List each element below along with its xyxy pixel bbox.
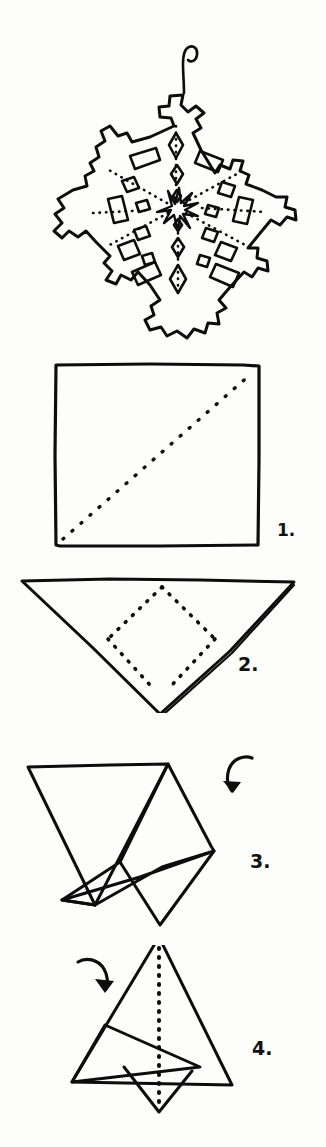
right-flap-outline bbox=[120, 764, 214, 925]
step-3-figure bbox=[0, 745, 326, 945]
instruction-sheet: 1. 2. 3. bbox=[0, 0, 326, 1147]
radial-fold-lines-outer bbox=[93, 208, 265, 213]
step-4-figure bbox=[0, 945, 326, 1135]
radial-fold-lines bbox=[106, 126, 247, 288]
upper-flap-outline bbox=[28, 764, 168, 905]
fold-arrow-left-head-icon bbox=[223, 781, 241, 793]
step-3-label: 3. bbox=[250, 852, 270, 871]
step-2-figure bbox=[0, 573, 326, 713]
diagonal-fold-line bbox=[63, 373, 252, 539]
finished-snowflake bbox=[0, 0, 326, 345]
hanging-loop-icon bbox=[183, 46, 197, 93]
step-2-label: 2. bbox=[238, 655, 258, 674]
center-star-icon bbox=[157, 188, 198, 231]
step-4-label: 4. bbox=[252, 1039, 272, 1058]
step-1-label: 1. bbox=[277, 522, 295, 539]
triangle-outline bbox=[22, 579, 294, 713]
cutout-holes bbox=[108, 133, 253, 293]
lower-flap-outline bbox=[62, 851, 214, 905]
fold-arrow-right-head-icon bbox=[95, 979, 114, 993]
left-overlap-flap bbox=[72, 1025, 200, 1082]
tall-triangle-outline bbox=[72, 945, 232, 1085]
square-outline bbox=[55, 364, 259, 546]
v-fold-lines bbox=[108, 587, 215, 685]
